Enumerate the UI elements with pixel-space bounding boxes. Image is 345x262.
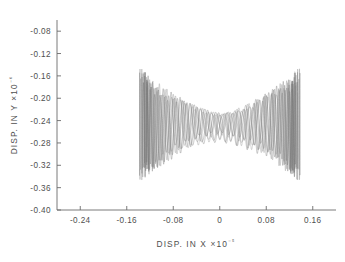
y-tick-label-3: -0.28 — [30, 139, 51, 148]
x-axis-tick-labels: -0.24-0.16-0.0800.080.16 — [70, 216, 322, 225]
y-tick-label-5: -0.20 — [30, 94, 51, 103]
x-tick-label-0: -0.24 — [70, 216, 91, 225]
y-tick-label-1: -0.36 — [30, 184, 51, 193]
x-tick-label-4: 0.08 — [257, 216, 275, 225]
y-tick-label-0: -0.40 — [30, 206, 51, 215]
y-tick-label-7: -0.12 — [30, 50, 51, 59]
x-tick-label-3: 0 — [217, 216, 222, 225]
plot-canvas: -0.40-0.36-0.32-0.28-0.24-0.20-0.16-0.12… — [0, 0, 345, 262]
svg-text:DISP. IN X ×10⁻⁵: DISP. IN X ×10⁻⁵ — [157, 239, 236, 249]
data-traces — [140, 69, 300, 180]
y-tick-label-8: -0.08 — [30, 27, 51, 36]
svg-text:DISP. IN Y ×10⁻⁶: DISP. IN Y ×10⁻⁶ — [9, 76, 19, 155]
y-axis-tick-labels: -0.40-0.36-0.32-0.28-0.24-0.20-0.16-0.12… — [30, 27, 51, 215]
figure-container: -0.40-0.36-0.32-0.28-0.24-0.20-0.16-0.12… — [0, 0, 345, 262]
x-axis-tickmarks — [80, 206, 313, 210]
x-tick-label-5: 0.16 — [304, 216, 322, 225]
x-axis-title: DISP. IN X ×10⁻⁵ — [157, 239, 236, 249]
y-axis-tickmarks — [57, 31, 61, 210]
x-tick-label-2: -0.08 — [163, 216, 184, 225]
y-axis-title: DISP. IN Y ×10⁻⁶ — [9, 76, 19, 155]
y-tick-label-4: -0.24 — [30, 117, 51, 126]
y-tick-label-6: -0.16 — [30, 72, 51, 81]
x-tick-label-1: -0.16 — [116, 216, 137, 225]
y-tick-label-2: -0.32 — [30, 161, 51, 170]
